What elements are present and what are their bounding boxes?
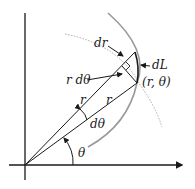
r-dtheta-arrow <box>87 74 122 80</box>
label-dr: dr <box>94 36 109 50</box>
label-r-lower: r <box>106 93 113 107</box>
label-r-upper: r <box>80 93 87 107</box>
dL-arrow <box>141 65 150 66</box>
dtheta-arc <box>80 109 87 120</box>
polar-arc-length-diagram: dr dL r dθ (r, θ) r r dθ θ <box>0 0 195 189</box>
label-dtheta: dθ <box>90 117 106 131</box>
label-dL: dL <box>152 58 168 72</box>
label-theta: θ <box>78 146 86 160</box>
label-r-dtheta: r dθ <box>66 73 91 87</box>
right-angle-marker <box>126 62 130 70</box>
r-dtheta-segment <box>122 66 137 83</box>
dL-arc <box>135 52 138 83</box>
theta-arc <box>64 138 73 165</box>
label-point: (r, θ) <box>142 75 171 89</box>
